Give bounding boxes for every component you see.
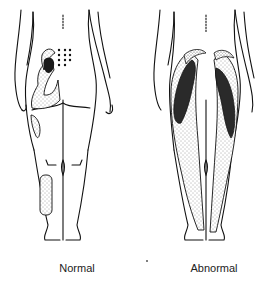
dot-grid-marker	[58, 49, 71, 66]
stipple-area-calf	[40, 175, 52, 215]
abnormal-body-illustration	[136, 0, 273, 250]
artifact-dot	[146, 260, 148, 262]
caption-abnormal: Abnormal	[174, 262, 254, 274]
abnormal-figure	[136, 0, 273, 250]
normal-body-illustration	[0, 0, 136, 250]
stipple-area-thigh	[31, 115, 40, 138]
normal-figure	[0, 0, 136, 250]
caption-normal: Normal	[37, 262, 117, 274]
